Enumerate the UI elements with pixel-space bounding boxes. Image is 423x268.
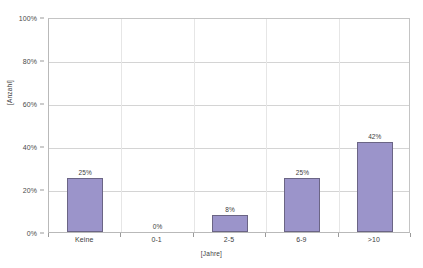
chart-title (58, 0, 358, 3)
y-axis-tick-mark (40, 233, 44, 234)
x-axis-tick-label: Keine (75, 236, 93, 243)
x-axis-title: [Jahre] (0, 250, 423, 257)
x-axis-tick-mark (120, 233, 121, 237)
y-axis-tick-label: 80% (23, 58, 37, 65)
x-axis-tick-label: >10 (368, 236, 380, 243)
y-axis-tick-mark (40, 147, 44, 148)
x-axis-tick-mark (193, 233, 194, 237)
x-axis-tick-label: 6-9 (296, 236, 306, 243)
x-axis-tick-mark (410, 233, 411, 237)
x-axis-tick-mark (338, 233, 339, 237)
y-axis-tick-label: 20% (23, 187, 37, 194)
y-axis-tick-mark (40, 190, 44, 191)
bar (212, 215, 248, 232)
bar-value-label: 0% (153, 223, 163, 230)
y-axis-tick-mark (40, 61, 44, 62)
gridline (49, 148, 409, 149)
bar (67, 178, 103, 232)
bar-chart-figure: [Anzahl] 0%20%40%60%80%100% 25%0%8%25%42… (0, 0, 423, 268)
gridline (49, 62, 409, 63)
y-axis-tick-mark (40, 104, 44, 105)
y-axis-tick-label: 60% (23, 101, 37, 108)
bar-value-label: 42% (368, 133, 381, 140)
category-separator (266, 19, 267, 232)
category-separator (194, 19, 195, 232)
x-axis-tick-mark (48, 233, 49, 237)
category-separator (339, 19, 340, 232)
bar (357, 142, 393, 232)
x-axis-tick-label: 2-5 (224, 236, 234, 243)
x-axis-tick-label: 0-1 (151, 236, 161, 243)
x-axis-tick-labels: Keine0-12-56-9>10 (48, 236, 410, 250)
x-axis-tick-mark (265, 233, 266, 237)
bar-value-label: 25% (296, 169, 309, 176)
y-axis-tick-mark (40, 18, 44, 19)
y-axis-tick-labels: 0%20%40%60%80%100% (0, 18, 44, 233)
bar-value-label: 25% (79, 169, 92, 176)
plot-area: 25%0%8%25%42% (48, 18, 410, 233)
y-axis-tick-label: 100% (19, 15, 37, 22)
y-axis-tick-label: 0% (27, 230, 37, 237)
y-axis-tick-label: 40% (23, 144, 37, 151)
bar-value-label: 8% (225, 206, 235, 213)
gridline (49, 105, 409, 106)
bar (284, 178, 320, 232)
category-separator (121, 19, 122, 232)
